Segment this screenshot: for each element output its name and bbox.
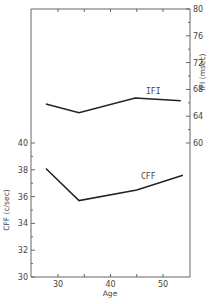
left-tick-label: 38 [18, 166, 28, 175]
right-tick-label: 76 [193, 32, 203, 41]
left-y-axis-label: CFF (c/sec) [2, 189, 11, 230]
cff-series-label: CFF [141, 172, 156, 181]
ifi-series-label: IFI [146, 87, 161, 96]
right-tick-label: 64 [193, 112, 203, 121]
left-tick-label: 36 [18, 193, 28, 202]
x-axis-label: Age [103, 289, 118, 298]
right-tick-label: 80 [193, 5, 203, 14]
chart: 304050 303234363840 606468727680 IFICFF … [0, 0, 214, 304]
right-tick-label: 60 [193, 139, 203, 148]
x-tick-label: 40 [105, 280, 115, 289]
left-tick-label: 34 [18, 219, 28, 228]
left-y-axis-ticks: 303234363840 [18, 139, 35, 282]
cff-line [46, 169, 183, 201]
right-y-axis-label: IFI (msec) [198, 53, 207, 90]
left-tick-label: 30 [18, 273, 28, 282]
x-tick-label: 50 [158, 280, 168, 289]
left-tick-label: 32 [18, 246, 28, 255]
x-tick-label: 30 [53, 280, 63, 289]
ifi-line [46, 98, 181, 113]
x-axis-ticks: 304050 [53, 9, 168, 289]
series-lines: IFICFF [46, 87, 183, 201]
plot-frame [31, 9, 190, 277]
left-tick-label: 40 [18, 139, 28, 148]
